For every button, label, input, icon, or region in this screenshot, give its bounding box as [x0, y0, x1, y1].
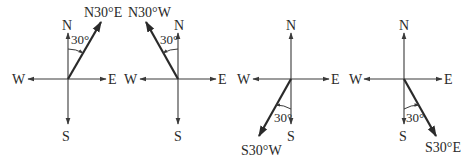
panel-s30e: N S E W 30° S30°E [349, 18, 461, 155]
angle-label: 30° [274, 110, 292, 125]
bearing-label: S30°W [241, 143, 282, 158]
bearing-label: N30°W [128, 5, 172, 20]
west-label: W [349, 72, 363, 87]
bearing-label: S30°E [425, 140, 461, 155]
angle-arc [163, 49, 178, 53]
angle-arc [404, 105, 419, 109]
west-label: W [12, 72, 26, 87]
east-label: E [331, 72, 340, 87]
east-label: E [444, 72, 453, 87]
angle-label: 30° [71, 32, 89, 47]
north-label: N [174, 18, 184, 33]
north-label: N [286, 18, 296, 33]
panel-n30e: N S E W 30° N30°E [12, 5, 122, 144]
south-label: S [287, 129, 295, 144]
bearing-vector [68, 22, 101, 79]
south-label: S [62, 129, 70, 144]
angle-label: 30° [406, 110, 424, 125]
bearing-vector [404, 79, 436, 136]
south-label: S [174, 129, 182, 144]
west-label: W [124, 72, 138, 87]
bearing-vector [259, 79, 291, 136]
east-label: E [218, 72, 227, 87]
south-label: S [399, 129, 407, 144]
east-label: E [108, 72, 117, 87]
bearing-label: N30°E [84, 5, 122, 20]
panel-n30w: N S E W 30° N30°W [124, 5, 227, 144]
panel-s30w: N S E W 30° S30°W [237, 18, 340, 158]
north-label: N [62, 18, 72, 33]
angle-label: 30° [160, 32, 178, 47]
angle-arc [68, 49, 83, 53]
west-label: W [237, 72, 251, 87]
angle-arc [276, 105, 291, 109]
compass-bearings-diagram: N S E W 30° N30°E N S E W 30° N30°W N S … [0, 0, 466, 164]
north-label: N [399, 18, 409, 33]
